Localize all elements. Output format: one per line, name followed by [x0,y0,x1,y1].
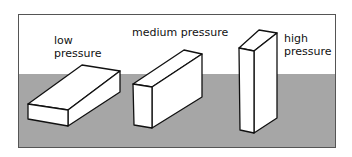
high-pressure-label: high pressure [284,32,332,58]
high-pressure-label-line2: pressure [284,45,332,58]
low-pressure-label-line2: pressure [54,47,102,60]
low-pressure-box [28,65,120,126]
medium-pressure-label: medium pressure [132,26,228,39]
low-pressure-label-line1: low [54,34,102,47]
high-pressure-label-line1: high [284,32,332,45]
boxes-illustration [0,0,352,157]
high-pressure-box [239,30,277,133]
low-pressure-label: low pressure [54,34,102,60]
medium-pressure-box [133,50,202,128]
